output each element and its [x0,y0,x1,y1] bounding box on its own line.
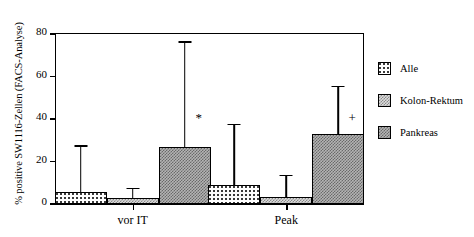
y-axis-tick: 40 [12,118,56,119]
bar-alle-vor-it [55,192,107,204]
legend-label: Alle [400,63,418,74]
x-axis-tick-label: vor IT [118,213,148,228]
error-bar-line [132,189,134,198]
significance-marker: * [196,111,203,124]
bar-alle-peak [208,185,260,204]
bar-kolon-rektum-peak [260,197,312,204]
y-axis-tick-label: 20 [36,153,47,165]
error-bar-cap [332,86,345,88]
error-bar-cap [280,175,293,177]
legend-swatch [378,94,391,107]
x-axis-tick-mark [286,204,288,210]
y-axis-title: % positive SW1116-Zellen (FACS-Analyse) [13,14,24,214]
plot-inner: 020406080*vor IT+Peak [56,34,363,204]
y-axis-tick-mark [50,161,56,163]
legend-item-pankreas: Pankreas [378,120,474,144]
chart-legend: AlleKolon-RektumPankreas [378,56,474,152]
x-axis-tick-label: Peak [275,213,298,228]
y-axis-tick: 20 [12,161,56,162]
legend-item-alle: Alle [378,56,474,80]
legend-swatch [378,126,391,139]
error-bar-cap [74,145,87,147]
y-axis-tick-label: 80 [36,25,47,37]
y-axis-tick: 80 [12,33,56,34]
legend-label: Kolon-Rektum [400,95,463,106]
y-axis-tick-mark [50,76,56,78]
error-bar-line [233,125,235,185]
y-axis-tick-label: 60 [36,68,47,80]
y-axis-tick: 0 [12,203,56,204]
y-axis-tick-mark [50,118,56,120]
y-axis-tick-mark [50,33,56,35]
bar-pankreas-vor-it [159,147,211,204]
plot-area: 020406080*vor IT+Peak [55,33,364,205]
error-bar-cap [178,41,191,43]
y-axis-tick-label: 40 [36,110,47,122]
legend-swatch [378,62,391,75]
error-bar-line [184,43,186,147]
error-bar-line [80,147,82,193]
bar-pankreas-peak [312,134,364,204]
legend-item-kolon-rektum: Kolon-Rektum [378,88,474,112]
y-axis-tick-label: 0 [42,195,48,207]
legend-label: Pankreas [400,127,438,138]
error-bar-cap [228,124,241,126]
y-axis-tick: 60 [12,76,56,77]
error-bar-line [337,87,339,134]
error-bar-cap [126,188,139,190]
x-axis-tick-mark [133,204,135,210]
significance-marker: + [349,111,356,124]
chart-figure: % positive SW1116-Zellen (FACS-Analyse) … [0,0,474,237]
error-bar-line [285,176,287,196]
